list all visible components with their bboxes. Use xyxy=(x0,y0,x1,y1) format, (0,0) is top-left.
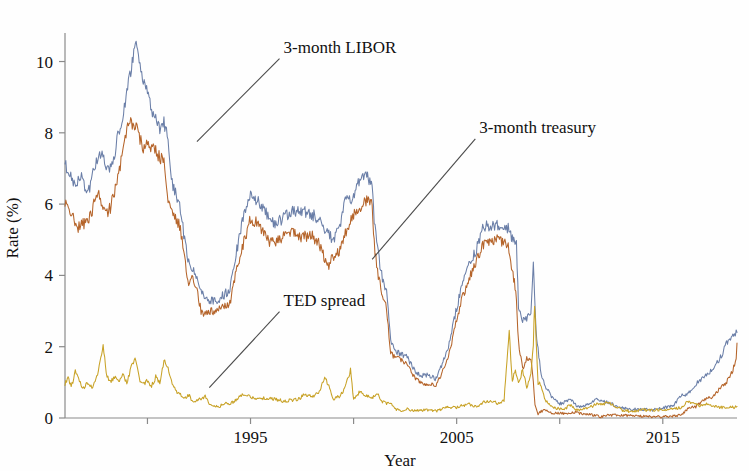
series-group xyxy=(65,41,737,418)
libor-annotation-label: 3-month LIBOR xyxy=(284,38,398,57)
y-tick-label: 8 xyxy=(45,124,54,143)
x-axis-title: Year xyxy=(384,451,416,470)
y-tick-label: 2 xyxy=(45,338,54,357)
x-tick-label: 2005 xyxy=(440,428,474,447)
line-chart-canvas: 0246810199520052015 3-month LIBOR3-month… xyxy=(0,0,749,471)
series-line-3-month-treasury xyxy=(65,118,737,418)
ted-annotation-leader-line xyxy=(209,312,279,388)
ted-annotation-label: TED spread xyxy=(284,291,366,310)
y-tick-label: 10 xyxy=(36,53,53,72)
y-tick-label: 6 xyxy=(45,195,54,214)
y-tick-label: 4 xyxy=(45,266,54,285)
libor-annotation-leader-line xyxy=(197,59,280,142)
y-axis-title: Rate (%) xyxy=(3,198,22,259)
y-tick-label: 0 xyxy=(45,409,54,428)
treasury-annotation-label: 3-month treasury xyxy=(479,118,596,137)
chart-figure: 0246810199520052015 3-month LIBOR3-month… xyxy=(0,0,749,471)
x-tick-label: 1995 xyxy=(234,428,268,447)
x-tick-label: 2015 xyxy=(646,428,680,447)
treasury-annotation-leader-line xyxy=(372,139,475,260)
axes-group: 0246810199520052015 xyxy=(36,33,737,447)
